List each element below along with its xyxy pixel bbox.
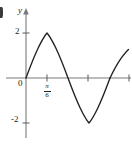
y-tick-label-negative-2: -2: [11, 115, 19, 124]
y-tick-label-2: 2: [15, 27, 20, 36]
graph-canvas: [0, 0, 132, 145]
y-axis-label: y: [18, 6, 22, 15]
fraction-denominator: 6: [40, 92, 54, 99]
y-axis-arrow-icon: [23, 8, 29, 15]
math-figure-sine-graph: y 0 2 -2 π 6: [0, 0, 132, 145]
fraction-numerator: π: [40, 83, 54, 90]
x-tick-label-pi-over-6: π 6: [40, 83, 54, 100]
sine-curve-tail: [110, 50, 129, 79]
origin-label: 0: [18, 79, 23, 88]
